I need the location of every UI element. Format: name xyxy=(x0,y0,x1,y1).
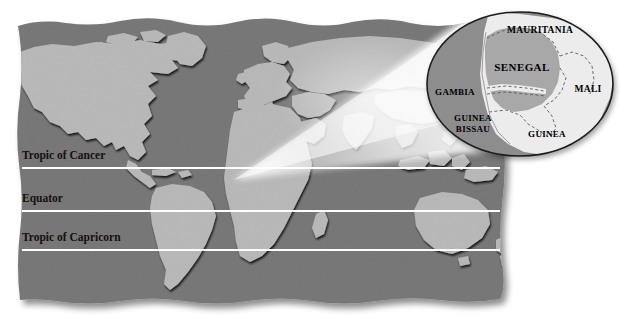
inset-label-senegal: SENEGAL xyxy=(494,61,549,73)
inset-label-mali: MALI xyxy=(574,84,601,94)
tropic-of-cancer-label: Tropic of Cancer xyxy=(22,149,105,162)
inset-label-guinea-bissau-line2: BISSAU xyxy=(456,124,491,134)
map-figure: Tropic of Cancer Equator Tropic of Capri… xyxy=(0,0,620,330)
figure-canvas: Tropic of Cancer Equator Tropic of Capri… xyxy=(0,0,620,330)
inset-label-mauritania: MAURITANIA xyxy=(507,25,573,35)
inset-label-guinea: GUINEA xyxy=(528,129,566,139)
inset-label-gambia: GAMBIA xyxy=(435,87,475,97)
tropic-of-capricorn-label: Tropic of Capricorn xyxy=(22,231,121,244)
equator-label: Equator xyxy=(22,192,63,205)
inset-label-guinea-bissau-line1: GUINEA xyxy=(454,113,492,123)
